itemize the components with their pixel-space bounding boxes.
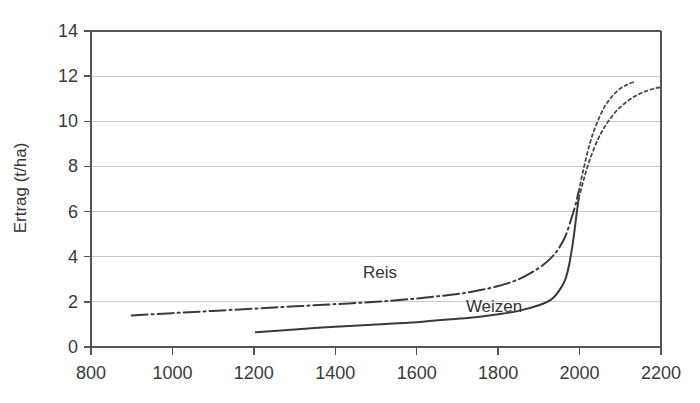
x-tick-label-800: 800 <box>76 363 106 383</box>
x-tick-label-2000: 2000 <box>560 363 600 383</box>
y-tick-label-2: 2 <box>68 292 78 312</box>
x-tick-label-2200: 2200 <box>641 363 681 383</box>
x-tick-label-1000: 1000 <box>152 363 192 383</box>
series-label-reis: Reis <box>363 263 397 282</box>
y-tick-label-6: 6 <box>68 202 78 222</box>
chart-background <box>0 0 700 403</box>
x-tick-label-1600: 1600 <box>397 363 437 383</box>
chart-container: 02468101214 8001000120014001600180020002… <box>0 0 700 403</box>
x-tick-label-1800: 1800 <box>478 363 518 383</box>
y-tick-label-14: 14 <box>58 21 78 41</box>
x-tick-label-1400: 1400 <box>315 363 355 383</box>
x-tick-label-1200: 1200 <box>234 363 274 383</box>
yield-line-chart: 02468101214 8001000120014001600180020002… <box>0 0 700 403</box>
y-tick-label-10: 10 <box>58 111 78 131</box>
y-tick-label-4: 4 <box>68 247 78 267</box>
y-tick-label-12: 12 <box>58 66 78 86</box>
y-tick-label-8: 8 <box>68 156 78 176</box>
y-axis-title: Ertrag (t/ha) <box>11 143 30 234</box>
y-tick-label-0: 0 <box>68 337 78 357</box>
series-label-weizen: Weizen <box>466 297 522 316</box>
